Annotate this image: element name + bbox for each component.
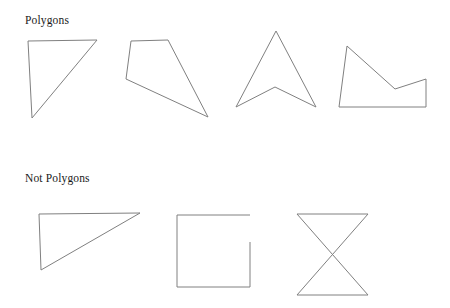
shape-right-triangle <box>28 40 97 118</box>
shape-quadrilateral <box>126 40 208 117</box>
shape-bowtie <box>297 214 368 295</box>
shape-open-square-body <box>177 215 250 287</box>
shape-zigzag-pentagon <box>339 46 426 107</box>
shapes-canvas <box>0 0 450 308</box>
shape-concave-arrow <box>236 31 316 107</box>
shape-self-intersecting-open-figure <box>39 213 140 270</box>
